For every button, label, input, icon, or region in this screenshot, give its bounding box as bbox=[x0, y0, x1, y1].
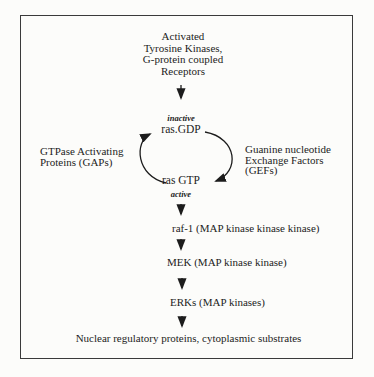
substrates-label: Nuclear regulatory proteins, cytoplasmic… bbox=[31, 333, 346, 345]
inactive-state-label: inactive bbox=[141, 114, 221, 123]
cascade-node-raf1: raf-1 (MAP kinase kinase kinase) bbox=[172, 223, 319, 235]
gefs-regulator-label: Guanine nucleotide Exchange Factors (GEF… bbox=[245, 144, 331, 176]
receptors-label: Activated Tyrosine Kinases, G-protein co… bbox=[88, 31, 278, 77]
gefs-label-line: (GEFs) bbox=[245, 165, 331, 176]
ras-gtp-node: ras GTP bbox=[131, 175, 231, 187]
receptors-label-line: Activated bbox=[88, 31, 278, 43]
cascade-node-erks: ERKs (MAP kinases) bbox=[170, 297, 265, 309]
gefs-label-line: Guanine nucleotide bbox=[245, 144, 331, 155]
receptors-label-line: G-protein coupled bbox=[88, 54, 278, 66]
active-state-label: active bbox=[141, 190, 221, 199]
receptors-label-line: Receptors bbox=[88, 66, 278, 78]
gaps-label-line: GTPase Activating bbox=[40, 146, 123, 157]
pathway-figure: Activated Tyrosine Kinases, G-protein co… bbox=[0, 0, 374, 377]
gaps-regulator-label: GTPase Activating Proteins (GAPs) bbox=[40, 146, 123, 167]
gaps-label-line: Proteins (GAPs) bbox=[40, 157, 123, 168]
ras-gdp-node: ras.GDP bbox=[131, 124, 231, 136]
cascade-node-mek: MEK (MAP kinase kinase) bbox=[167, 257, 287, 269]
